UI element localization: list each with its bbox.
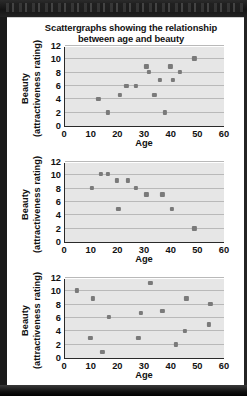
y-axis-tick-label: 6 [56, 198, 61, 207]
data-point [91, 297, 95, 301]
y-axis-label-line-2: (attractiveness rating) [32, 39, 44, 136]
gridline [65, 174, 224, 175]
data-point [90, 186, 94, 190]
data-point [99, 172, 103, 176]
y-axis-label: Beauty(attractiveness rating) [19, 45, 45, 131]
gridline [65, 45, 224, 46]
data-point [106, 111, 110, 115]
plot-area [64, 163, 224, 243]
gridline [65, 112, 224, 113]
data-point [118, 93, 122, 97]
y-axis-tick-label: 4 [56, 328, 61, 337]
screenshot-root: Scattergraphs showing the relationship b… [0, 0, 247, 396]
gridline [65, 58, 224, 59]
y-axis-tick-label: 12 [51, 158, 61, 167]
gridline [65, 228, 224, 229]
gridline [65, 330, 224, 331]
document-page: Scattergraphs showing the relationship b… [7, 17, 244, 385]
y-axis-tick-label: 2 [56, 341, 61, 350]
scatter-chart-3: Beauty(attractiveness rating)02468101201… [7, 277, 244, 381]
gridline [65, 304, 224, 305]
y-axis-label: Beauty(attractiveness rating) [19, 161, 45, 247]
data-point [88, 336, 92, 340]
gridline [65, 214, 224, 215]
data-point [116, 207, 120, 211]
right-dark-edge [244, 17, 247, 385]
data-point [134, 84, 138, 88]
scatter-chart-1: Beauty(attractiveness rating)02468101201… [7, 45, 244, 149]
y-axis-tick-label: 0 [56, 122, 61, 131]
y-axis-tick-label: 2 [56, 109, 61, 118]
plot-area [64, 47, 224, 127]
gridline [65, 98, 224, 99]
y-axis-label-line-2: (attractiveness rating) [32, 271, 44, 368]
y-axis-tick-label: 4 [56, 212, 61, 221]
y-axis-label: Beauty(attractiveness rating) [19, 277, 45, 363]
x-axis-label: Age [64, 254, 224, 264]
y-axis-tick-label: 2 [56, 225, 61, 234]
data-point [152, 93, 156, 97]
page-title-line-1: Scattergraphs showing the relationship [25, 22, 237, 33]
y-axis-tick-label: 8 [56, 185, 61, 194]
y-axis-tick-label: 10 [51, 288, 61, 297]
data-point [147, 70, 151, 74]
y-axis-tick-label: 0 [56, 354, 61, 363]
data-point [183, 329, 187, 333]
x-axis-label: Age [64, 138, 224, 148]
data-point [207, 323, 211, 327]
data-point [184, 297, 188, 301]
gridline [65, 290, 224, 291]
data-point [158, 78, 162, 82]
y-axis-ticks: 024681012 [45, 277, 62, 361]
gridline [65, 72, 224, 73]
y-axis-ticks: 024681012 [45, 45, 62, 129]
gridline [65, 161, 224, 162]
y-axis-label-line-1: Beauty [21, 271, 33, 368]
top-band-texture [6, 3, 243, 12]
data-point [139, 311, 143, 315]
data-point [148, 281, 152, 285]
y-axis-tick-label: 10 [51, 56, 61, 65]
gridline [65, 317, 224, 318]
x-axis-label: Age [64, 370, 224, 380]
scatter-chart-2: Beauty(attractiveness rating)02468101201… [7, 161, 244, 265]
y-axis-tick-label: 8 [56, 69, 61, 78]
gridline [65, 277, 224, 278]
y-axis-tick-label: 0 [56, 238, 61, 247]
y-axis-tick-label: 10 [51, 172, 61, 181]
data-point [168, 65, 172, 69]
y-axis-label-line-2: (attractiveness rating) [32, 155, 44, 252]
y-axis-tick-label: 6 [56, 82, 61, 91]
data-point [126, 179, 130, 183]
y-axis-tick-label: 12 [51, 274, 61, 283]
plot-area [64, 279, 224, 359]
data-point [75, 289, 79, 293]
data-point [170, 207, 174, 211]
bottom-dark-band [0, 385, 247, 396]
data-point [208, 302, 212, 306]
data-point [160, 309, 164, 313]
data-point [100, 350, 104, 354]
data-point [106, 172, 110, 176]
data-point [124, 84, 128, 88]
top-dark-band [0, 0, 247, 17]
data-point [171, 78, 175, 82]
data-point [178, 70, 182, 74]
data-point [96, 97, 100, 101]
left-dark-edge [0, 17, 7, 385]
y-axis-ticks: 024681012 [45, 161, 62, 245]
y-axis-tick-label: 4 [56, 96, 61, 105]
data-point [192, 227, 196, 231]
y-axis-tick-label: 8 [56, 301, 61, 310]
gridline [65, 344, 224, 345]
data-point [107, 315, 111, 319]
gridline [65, 85, 224, 86]
data-point [144, 65, 148, 69]
data-point [192, 57, 196, 61]
data-point [115, 179, 119, 183]
data-point [136, 336, 140, 340]
data-point [163, 111, 167, 115]
data-point [144, 193, 148, 197]
y-axis-label-line-1: Beauty [21, 39, 33, 136]
y-axis-tick-label: 12 [51, 42, 61, 51]
